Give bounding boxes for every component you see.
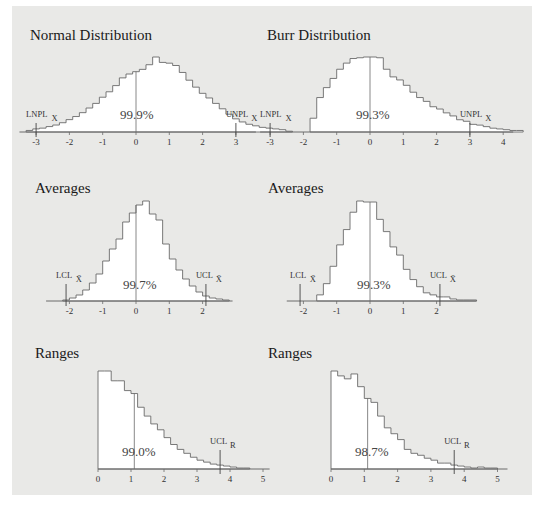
x-tick-label: 1 xyxy=(129,474,134,484)
coverage-percent: 99.3% xyxy=(356,107,390,122)
x-tick-label: 4 xyxy=(462,474,467,484)
x-tick-label: -1 xyxy=(99,306,107,316)
x-tick-label: 4 xyxy=(501,137,506,147)
x-tick-label: 1 xyxy=(167,306,172,316)
limit-label: UNPL xyxy=(226,109,248,119)
x-tick-label: 3 xyxy=(468,137,473,147)
x-tick-label: -3 xyxy=(266,137,274,147)
limit-subscript: R xyxy=(464,440,470,450)
limit-label: UCL xyxy=(430,270,447,280)
limit-subscript: X xyxy=(485,113,491,123)
x-tick-label: -3 xyxy=(32,137,40,147)
x-tick-label: 1 xyxy=(401,137,406,147)
x-tick-label: 0 xyxy=(368,306,373,316)
x-tick-label: 0 xyxy=(134,306,139,316)
x-tick-label: 2 xyxy=(434,306,439,316)
limit-subscript: X̄ xyxy=(216,274,222,284)
limit-subscript: X xyxy=(52,113,58,123)
x-tick-label: 1 xyxy=(167,137,172,147)
x-tick-label: -1 xyxy=(99,137,107,147)
coverage-percent: 98.7% xyxy=(355,444,389,459)
x-tick-label: 2 xyxy=(395,474,400,484)
x-tick-label: 0 xyxy=(368,137,373,147)
limit-label: UCL xyxy=(210,436,227,446)
x-tick-label: 2 xyxy=(200,306,205,316)
x-tick-label: -2 xyxy=(300,137,308,147)
x-tick-label: 0 xyxy=(329,474,334,484)
x-tick-label: 3 xyxy=(234,137,239,147)
limit-label: LNPL xyxy=(26,109,47,119)
limit-label: LNPL xyxy=(260,109,281,119)
limit-label: UNPL xyxy=(460,109,482,119)
histogram-figure: Normal Distribution-3-2-1012399.9%LNPLXU… xyxy=(0,0,544,509)
x-tick-label: 3 xyxy=(195,474,200,484)
x-tick-label: 2 xyxy=(200,137,205,147)
x-tick-label: 1 xyxy=(401,306,406,316)
chart-averages-burr: Averages-2-101299.3%LCLX̄UCLX̄ xyxy=(268,180,477,316)
chart-burr-distribution: Burr Distribution-3-2-10123499.3%LNPLXUN… xyxy=(260,27,523,147)
x-tick-label: 3 xyxy=(429,474,434,484)
chart-title: Averages xyxy=(268,180,324,196)
coverage-percent: 99.7% xyxy=(123,277,157,292)
limit-subscript: X̄ xyxy=(450,274,456,284)
x-tick-label: 1 xyxy=(362,474,367,484)
limit-subscript: X xyxy=(251,113,257,123)
limit-label: UCL xyxy=(444,436,461,446)
limit-label: UCL xyxy=(196,270,213,280)
x-tick-label: 5 xyxy=(261,474,266,484)
chart-title: Burr Distribution xyxy=(267,27,371,43)
chart-normal-distribution: Normal Distribution-3-2-1012399.9%LNPLXU… xyxy=(19,27,292,147)
chart-title: Normal Distribution xyxy=(30,27,153,43)
chart-title: Ranges xyxy=(35,345,79,361)
histogram-bars xyxy=(98,371,250,469)
limit-subscript: X xyxy=(286,113,292,123)
limit-subscript: R xyxy=(230,440,236,450)
histogram-bars xyxy=(317,201,477,301)
chart-averages-normal: Averages-2-101299.7%LCLX̄UCLX̄ xyxy=(35,180,233,316)
coverage-percent: 99.3% xyxy=(357,277,391,292)
x-tick-label: -2 xyxy=(66,137,74,147)
x-tick-label: 5 xyxy=(495,474,500,484)
limit-subscript: X̄ xyxy=(310,274,316,284)
x-tick-label: 2 xyxy=(162,474,167,484)
coverage-percent: 99.0% xyxy=(122,444,156,459)
chart-title: Ranges xyxy=(268,345,312,361)
x-tick-label: -2 xyxy=(300,306,308,316)
x-tick-label: -1 xyxy=(333,306,341,316)
coverage-percent: 99.9% xyxy=(120,107,154,122)
x-tick-label: 2 xyxy=(434,137,439,147)
x-tick-label: 0 xyxy=(96,474,101,484)
limit-subscript: X̄ xyxy=(76,274,82,284)
x-tick-label: -2 xyxy=(66,306,74,316)
chart-ranges-burr: Ranges01234598.7%UCLR xyxy=(268,345,507,484)
x-tick-label: -1 xyxy=(333,137,341,147)
chart-title: Averages xyxy=(35,180,91,196)
x-tick-label: 4 xyxy=(228,474,233,484)
chart-ranges-normal: Ranges01234599.0%UCLR xyxy=(35,345,270,484)
limit-label: LCL xyxy=(56,270,72,280)
limit-label: LCL xyxy=(290,270,306,280)
x-tick-label: 0 xyxy=(134,137,139,147)
